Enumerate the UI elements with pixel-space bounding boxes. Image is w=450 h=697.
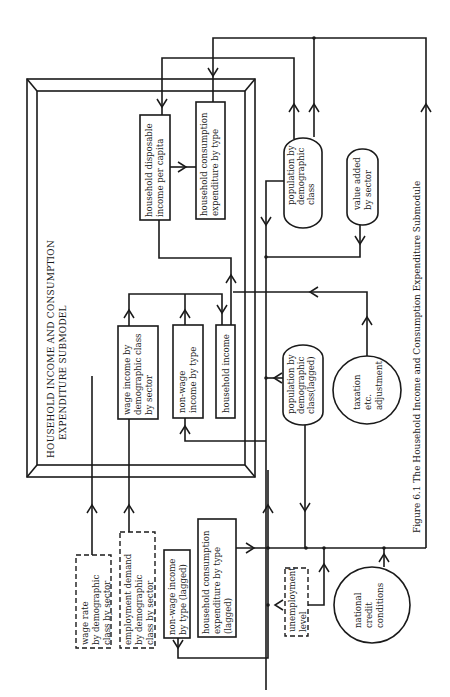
label: household disposable	[144, 123, 154, 217]
label: taxation	[352, 374, 362, 410]
label: wage rate	[80, 601, 90, 645]
node-value-added: value added by sector	[347, 149, 378, 225]
label: household income	[221, 334, 231, 413]
label: employment demand	[123, 553, 133, 645]
node-wage-rate: wage rate by demographic class by sector	[76, 555, 112, 648]
node-population: population by demographic class	[284, 138, 322, 228]
node-non-wage-lagged: non-wage income by type (lagged)	[164, 550, 190, 638]
label: by sector	[363, 169, 373, 210]
label: expenditure by type	[212, 547, 222, 634]
caption-text: Figure 6.1 The Household Income and Cons…	[412, 181, 422, 533]
label: class(lagged)	[306, 356, 316, 414]
label: non-wage	[177, 371, 187, 413]
flow-diagram: HOUSEHOLD INCOME AND CONSUMPTION EXPENDI…	[0, 0, 450, 697]
label: household consumption	[199, 112, 209, 216]
label: class by sector	[102, 580, 112, 645]
label: conditions	[375, 583, 385, 628]
label: adjustment	[374, 361, 384, 410]
submodel-title: HOUSEHOLD INCOME AND CONSUMPTION EXPENDI…	[46, 240, 68, 458]
label: level	[298, 611, 308, 632]
label: etc.	[363, 394, 373, 410]
node-household-income: household income	[216, 325, 235, 418]
node-credit: national credit conditions	[334, 567, 410, 643]
node-taxation: taxation etc. adjustment	[333, 356, 401, 424]
figure-caption: Figure 6.1 The Household Income and Cons…	[412, 181, 422, 533]
label: class	[306, 183, 316, 205]
label: income per capita	[155, 139, 165, 217]
label: credit	[364, 602, 374, 628]
label: demographic	[296, 357, 306, 414]
label: by sector	[144, 374, 154, 415]
label: population by	[286, 145, 296, 205]
node-wage-income: wage income by demographic class by sect…	[118, 326, 158, 419]
node-unemployment: unemployment level	[285, 567, 308, 636]
label: wage income by	[122, 344, 132, 415]
node-hh-disposable-income: household disposable income per capita	[140, 115, 170, 220]
node-population-lagged: population by demographic class(lagged)	[283, 345, 323, 425]
label: by demographic	[134, 574, 144, 645]
label: national	[353, 592, 363, 628]
label: population by	[286, 354, 296, 414]
label: (lagged)	[223, 598, 233, 634]
label: income by type	[188, 347, 198, 413]
node-hh-consumption: household consumption expenditure by typ…	[196, 102, 225, 219]
label: demographic class	[133, 334, 143, 415]
node-non-wage-income: non-wage income by type	[173, 325, 203, 418]
label: non-wage income	[167, 559, 177, 635]
label: household consumption	[201, 530, 211, 634]
label: expenditure by type	[210, 129, 220, 216]
label: class by sector	[145, 580, 155, 645]
label: by demographic	[91, 574, 101, 645]
submodel-title-line1: HOUSEHOLD INCOME AND CONSUMPTION	[46, 240, 56, 458]
label: by type (lagged)	[178, 564, 188, 635]
node-hh-consumption-lagged: household consumption expenditure by typ…	[198, 519, 236, 637]
label: demographic	[296, 148, 306, 205]
submodel-title-line2: EXPENDITURE SUBMODEL	[58, 305, 68, 440]
label: value added	[352, 157, 362, 211]
label: unemployment	[287, 567, 297, 632]
node-employment-demand: employment demand by demographic class b…	[120, 532, 155, 648]
